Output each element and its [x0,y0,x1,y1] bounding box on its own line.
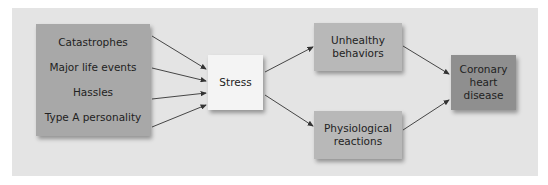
unhealthy-label-line1: Unhealthy [331,34,385,47]
stressor-type-a-personality: Type A personality [45,111,142,124]
stress-box: Stress [208,55,263,110]
stressor-hassles: Hassles [73,86,113,99]
physiological-reactions-box: Physiological reactions [314,111,402,159]
chd-label-line1: Coronary [460,63,508,76]
chd-label-line2: heart [470,76,498,89]
stress-label: Stress [219,76,251,89]
stressor-catastrophes: Catastrophes [58,36,128,49]
stressors-box: Catastrophes Major life events Hassles T… [36,24,150,136]
stressor-major-life-events: Major life events [49,61,136,74]
unhealthy-behaviors-box: Unhealthy behaviors [314,23,402,71]
physio-label-line1: Physiological [324,122,392,135]
unhealthy-label-line2: behaviors [332,47,384,60]
chd-label-line3: disease [464,89,504,102]
coronary-heart-disease-box: Coronary heart disease [451,55,516,110]
physio-label-line2: reactions [334,135,382,148]
